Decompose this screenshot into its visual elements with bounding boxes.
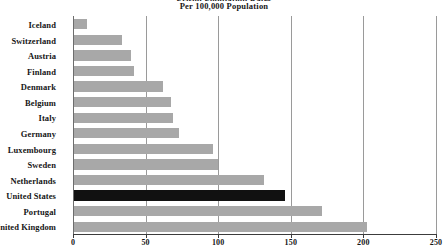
bar-united-kingdom xyxy=(74,222,367,232)
y-axis-label-luxembourg: Luxembourg xyxy=(0,145,56,155)
y-axis-label-italy: Italy xyxy=(0,113,56,123)
x-axis-line xyxy=(73,234,437,235)
bar-row xyxy=(74,187,437,204)
y-axis-label-austria: Austria xyxy=(0,51,56,61)
bar-row xyxy=(74,63,437,80)
bar-netherlands xyxy=(74,175,264,185)
bar-row xyxy=(74,141,437,158)
x-tick-label-0: 0 xyxy=(53,238,93,247)
y-axis-label-belgium: Belgium xyxy=(0,98,56,108)
y-axis-label-finland: Finland xyxy=(0,67,56,77)
bar-row xyxy=(74,16,437,33)
x-tick-label-100: 100 xyxy=(198,238,238,247)
y-axis-label-netherlands: Netherlands xyxy=(0,176,56,186)
bar-row xyxy=(74,172,437,189)
bar-austria xyxy=(74,50,131,60)
bar-row xyxy=(74,125,437,142)
y-axis-label-portugal: Portugal xyxy=(0,207,56,217)
plot-area: 050100150200250 IcelandSwitzerlandAustri… xyxy=(73,16,436,234)
chart-subtitle: Per 100,000 Population xyxy=(0,1,448,12)
bar-belgium xyxy=(74,97,171,107)
bar-germany xyxy=(74,128,179,138)
bar-chart-figure: Prison Population Rates Per 100,000 Popu… xyxy=(0,0,448,252)
x-tick-label-150: 150 xyxy=(271,238,311,247)
y-axis-label-denmark: Denmark xyxy=(0,82,56,92)
x-tick-label-250: 250 xyxy=(416,238,448,247)
bar-row xyxy=(74,94,437,111)
bar-sweden xyxy=(74,159,218,169)
bar-denmark xyxy=(74,81,163,91)
y-axis-label-united-states: United States xyxy=(0,191,56,201)
chart-title-block: Prison Population Rates Per 100,000 Popu… xyxy=(0,0,448,12)
y-axis-label-sweden: Sweden xyxy=(0,160,56,170)
x-tick-label-200: 200 xyxy=(343,238,383,247)
bar-row xyxy=(74,203,437,220)
y-axis-label-germany: Germany xyxy=(0,129,56,139)
bar-luxembourg xyxy=(74,144,213,154)
y-axis-label-iceland: Iceland xyxy=(0,20,56,30)
x-tick-label-50: 50 xyxy=(126,238,166,247)
bar-row xyxy=(74,78,437,95)
bar-row xyxy=(74,32,437,49)
bar-row xyxy=(74,47,437,64)
bar-row xyxy=(74,156,437,173)
bar-iceland xyxy=(74,19,87,29)
y-axis-label-switzerland: Switzerland xyxy=(0,36,56,46)
y-axis-label-united-kingdom: United Kingdom xyxy=(0,222,56,232)
bar-row xyxy=(74,218,437,235)
bar-switzerland xyxy=(74,35,122,45)
bar-united-states xyxy=(74,190,285,200)
bar-row xyxy=(74,109,437,126)
bar-finland xyxy=(74,66,134,76)
bar-portugal xyxy=(74,206,322,216)
bar-italy xyxy=(74,113,173,123)
